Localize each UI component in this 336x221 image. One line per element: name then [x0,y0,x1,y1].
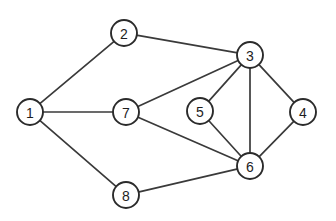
graph-node-6[interactable]: 6 [237,153,263,179]
graph-node-circle-4 [290,99,316,125]
graph-edge-3-4 [259,64,295,103]
graph-node-circle-8 [113,182,139,208]
graph-node-circle-2 [111,20,137,46]
graph-node-circle-6 [237,153,263,179]
graph-node-5[interactable]: 5 [187,98,213,124]
graph-node-4[interactable]: 4 [290,99,316,125]
graph-edge-6-7 [137,117,238,161]
graph-edge-1-8 [39,120,116,187]
graph-node-circle-3 [237,42,263,68]
graph-edge-2-3 [136,35,237,53]
graph-canvas: 12345678 [0,0,336,221]
graph-node-1[interactable]: 1 [17,99,43,125]
graph-edge-1-2 [40,41,115,104]
graph-node-circle-1 [17,99,43,125]
graph-node-3[interactable]: 3 [237,42,263,68]
graph-node-2[interactable]: 2 [111,20,137,46]
graph-edge-6-8 [138,169,238,192]
graph-node-8[interactable]: 8 [113,182,139,208]
graph-edge-3-5 [208,64,241,101]
node-layer: 12345678 [17,20,316,208]
graph-node-circle-5 [187,98,213,124]
graph-edge-5-6 [208,120,241,157]
graph-node-circle-7 [113,99,139,125]
graph-figure: 12345678 [0,0,336,221]
graph-edge-4-6 [259,121,294,157]
graph-node-7[interactable]: 7 [113,99,139,125]
